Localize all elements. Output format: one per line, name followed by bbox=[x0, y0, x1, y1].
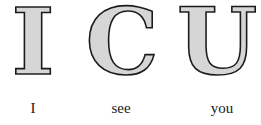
big-letter-c: C bbox=[84, 0, 160, 88]
caption-you: you bbox=[200, 100, 244, 116]
big-letter-i: I bbox=[4, 0, 62, 88]
big-letter-u: U bbox=[176, 0, 258, 88]
caption-i: I bbox=[12, 100, 54, 116]
rebus-illustration: I C U I see you bbox=[0, 0, 261, 125]
caption-see: see bbox=[99, 100, 143, 116]
